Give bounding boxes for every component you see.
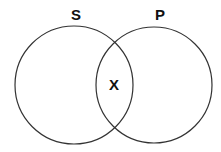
set-s-label: S (71, 6, 81, 23)
intersection-label: X (109, 76, 119, 93)
venn-diagram: S P X (0, 0, 221, 152)
set-p-label: P (155, 6, 165, 23)
